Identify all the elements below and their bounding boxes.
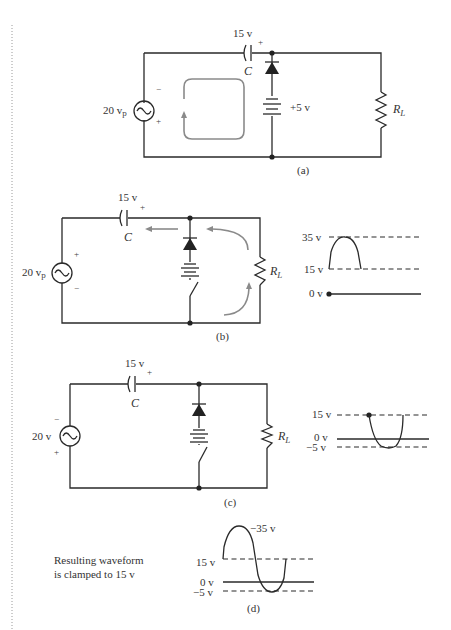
junction-dot bbox=[196, 381, 201, 386]
panel-c: 15 v + C 20 v − + RL (c) 15 v 0 v −5 v bbox=[32, 357, 429, 509]
plus-sign: + bbox=[258, 37, 263, 47]
waveform-curve bbox=[369, 415, 403, 448]
capacitor-voltage-label: 15 v bbox=[233, 27, 253, 39]
battery-icon bbox=[262, 96, 282, 116]
level-label: 15 v bbox=[312, 408, 332, 420]
diode-icon bbox=[183, 238, 197, 250]
arrowhead-icon bbox=[206, 226, 213, 232]
capacitor-label: C bbox=[131, 396, 140, 410]
clamper-circuit-figure: 15 v + C 20 vp − + +5 v RL (a) bbox=[0, 0, 451, 630]
source-label: 20 vp bbox=[103, 104, 127, 118]
source-label: 20 v bbox=[32, 430, 52, 442]
resistor-icon bbox=[376, 92, 386, 128]
peak-label: −35 v bbox=[250, 522, 276, 534]
caption-b: (b) bbox=[216, 330, 229, 343]
level-label: 35 v bbox=[302, 231, 322, 243]
ac-source-icon bbox=[134, 101, 154, 121]
plus-sign: + bbox=[147, 367, 152, 377]
capacitor-voltage-label: 15 v bbox=[125, 357, 145, 369]
resistor-icon bbox=[262, 424, 272, 448]
battery-voltage-label: +5 v bbox=[290, 101, 310, 113]
level-label: 0 v bbox=[309, 287, 323, 299]
flow-arrow-icon bbox=[212, 229, 248, 250]
minus-sign: − bbox=[74, 283, 79, 293]
capacitor-label: C bbox=[244, 64, 253, 78]
ac-source-icon bbox=[52, 263, 72, 283]
plus-sign: + bbox=[74, 249, 79, 259]
note-line-1: Resulting waveform bbox=[54, 554, 144, 566]
junction-dot bbox=[196, 485, 201, 490]
junction-dot bbox=[187, 215, 192, 220]
load-label: RL bbox=[269, 264, 282, 280]
diode-icon bbox=[265, 62, 279, 74]
diode-icon bbox=[192, 404, 206, 416]
arrowhead-icon bbox=[181, 111, 187, 118]
capacitor-icon bbox=[128, 376, 135, 392]
capacitor-icon bbox=[120, 210, 127, 226]
capacitor-label: C bbox=[124, 230, 133, 244]
note-line-2: is clamped to 15 v bbox=[54, 568, 135, 580]
plus-sign: + bbox=[140, 202, 145, 212]
junction-dot bbox=[269, 154, 274, 159]
junction-dot bbox=[269, 50, 274, 55]
junction-dot bbox=[187, 320, 192, 325]
arrowhead-icon bbox=[145, 226, 152, 232]
level-label: −5 v bbox=[193, 586, 213, 598]
ac-source-icon bbox=[60, 426, 80, 446]
plus-sign: + bbox=[156, 116, 161, 126]
capacitor-icon bbox=[244, 45, 251, 61]
level-label: −5 v bbox=[306, 441, 326, 453]
battery-icon bbox=[189, 428, 209, 444]
caption-c: (c) bbox=[224, 496, 237, 509]
circuit-b-wires bbox=[62, 218, 260, 323]
circuit-c-wires bbox=[70, 384, 267, 488]
waveform-b: 35 v 15 v 0 v bbox=[302, 231, 421, 299]
minus-sign: − bbox=[156, 84, 161, 94]
level-label: 15 v bbox=[196, 556, 216, 568]
plus-sign: + bbox=[54, 447, 59, 457]
panel-d: Resulting waveform is clamped to 15 v −3… bbox=[54, 522, 314, 615]
open-switch-icon bbox=[190, 282, 198, 296]
waveform-c: 15 v 0 v −5 v bbox=[306, 408, 429, 453]
open-switch-icon bbox=[199, 447, 207, 462]
caption-a: (a) bbox=[297, 164, 310, 177]
current-loop-arrow-icon bbox=[184, 79, 244, 139]
panel-a: 15 v + C 20 vp − + +5 v RL (a) bbox=[103, 27, 405, 177]
battery-icon bbox=[180, 262, 200, 278]
load-label: RL bbox=[392, 102, 405, 118]
flow-arrow-icon bbox=[224, 288, 249, 315]
caption-d: (d) bbox=[247, 602, 260, 615]
resistor-icon bbox=[255, 257, 265, 285]
load-label: RL bbox=[277, 429, 290, 445]
minus-sign: − bbox=[54, 414, 59, 424]
level-label: 15 v bbox=[304, 263, 324, 275]
source-label: 20 vp bbox=[22, 266, 46, 280]
arrowhead-icon bbox=[246, 282, 252, 289]
panel-b: 15 v + C 20 vp + − RL (b) 35 v 15 v 0 v bbox=[22, 191, 421, 343]
capacitor-voltage-label: 15 v bbox=[118, 191, 138, 203]
waveform-curve bbox=[329, 237, 361, 269]
